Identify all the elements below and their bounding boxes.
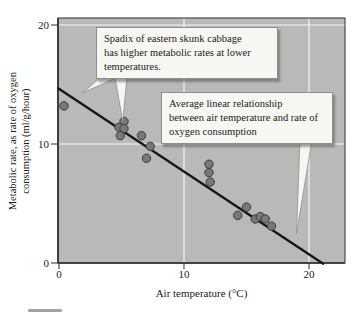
data-point bbox=[205, 168, 213, 176]
data-point bbox=[205, 160, 213, 168]
data-point bbox=[267, 222, 275, 230]
y-tick-label: 20 bbox=[38, 19, 50, 31]
page-artifact bbox=[28, 309, 62, 312]
x-tick-label: 0 bbox=[56, 268, 62, 280]
figure-metabolic-rate-chart: 0102001020 Metabolic rate, as rate of ox… bbox=[0, 0, 353, 314]
data-point bbox=[146, 142, 154, 150]
data-point bbox=[137, 131, 145, 139]
x-axis-title: Air temperature (°C) bbox=[58, 287, 345, 299]
data-point bbox=[116, 131, 124, 139]
data-point bbox=[206, 178, 214, 186]
data-point bbox=[261, 215, 269, 223]
data-point bbox=[234, 211, 242, 219]
y-axis-title-line2: consumption (ml/g/hour) bbox=[20, 19, 33, 264]
y-axis-title: Metabolic rate, as rate of oxygen consum… bbox=[6, 19, 32, 264]
x-tick-label: 10 bbox=[179, 268, 191, 280]
y-axis-title-line1: Metabolic rate, as rate of oxygen bbox=[6, 19, 19, 264]
data-point bbox=[242, 203, 250, 211]
annotation-skunk-cabbage: Spadix of eastern skunk cabbage has high… bbox=[96, 27, 278, 79]
data-point bbox=[60, 102, 68, 110]
annotation-linear-relationship: Average linear relationship between air … bbox=[161, 92, 333, 144]
data-point bbox=[142, 154, 150, 162]
x-tick-label: 20 bbox=[304, 268, 316, 280]
y-tick-label: 10 bbox=[38, 138, 50, 150]
y-tick-label: 0 bbox=[44, 257, 50, 269]
